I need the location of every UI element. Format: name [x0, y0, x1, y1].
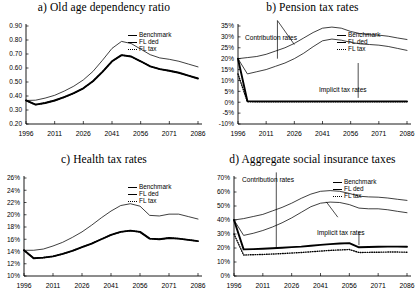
x-tick-label: 1996 [226, 282, 241, 289]
legend-swatch-benchmark [128, 183, 137, 190]
x-tick-label: 1996 [230, 130, 245, 137]
x-tick-label: 2026 [76, 130, 91, 137]
x-tick-label: 2086 [399, 282, 414, 289]
legend-swatch-fl-tax [128, 45, 137, 52]
legend-label-fl-ded: FL ded [344, 185, 364, 192]
panel-b-plot: -10%-5%0%5%10%15%20%25%30%35% 1996201120… [208, 20, 417, 148]
legend-label-fl-tax: FL tax [344, 192, 362, 199]
x-tick-label: 2011 [47, 130, 62, 137]
x-tick-label: 2041 [313, 282, 328, 289]
legend-swatch-fl-ded [333, 185, 342, 192]
panel-c-x-tick-labels: 1996201120262041205620712086 [16, 282, 205, 289]
legend-swatch-fl-tax [337, 45, 346, 52]
panel-d-series [234, 191, 407, 255]
y-tick-label: -10% [219, 120, 234, 127]
y-tick-label: 10% [217, 258, 230, 265]
y-tick-label: 0.60 [9, 64, 22, 71]
y-tick-label: 10% [221, 77, 234, 84]
panel-b-annotation-implicit-tax-rates: Implicit tax rates [319, 86, 367, 93]
panel-b-svg: -10%-5%0%5%10%15%20%25%30%35% 1996201120… [208, 20, 417, 148]
y-tick-label: 22% [7, 199, 20, 206]
panel-d-x-tick-labels: 1996201120262041205620712086 [226, 282, 414, 289]
panel-b-pension-tax-rates: b) Pension tax rates -10%-5%0%5%10%15%20… [208, 0, 417, 152]
legend-label-fl-ded: FL ded [139, 38, 159, 45]
legend-label-fl-ded: FL ded [348, 38, 368, 45]
y-tick-label: 10% [7, 272, 20, 279]
legend-item-fl-ded: FL ded [128, 190, 171, 197]
legend-label-fl-tax: FL tax [139, 197, 157, 204]
y-tick-label: 18% [7, 223, 20, 230]
y-tick-label: -5% [222, 109, 234, 116]
series-line [238, 59, 407, 102]
legend-item-fl-tax: FL tax [333, 192, 376, 199]
panel-b-x-tick-labels: 1996201120262041205620712086 [230, 130, 414, 137]
legend-swatch-fl-ded [337, 38, 346, 45]
y-tick-label: 0% [225, 99, 235, 106]
x-tick-label: 2056 [342, 282, 357, 289]
legend-label-fl-ded: FL ded [139, 190, 159, 197]
legend-label-benchmark: Benchmark [139, 183, 171, 190]
panel-d-plot: 0%10%20%30%40%50%60%70% 1996201120262041… [208, 172, 417, 300]
panel-d-title: d) Aggregate social insurance taxes [208, 153, 417, 165]
x-tick-label: 2011 [259, 130, 274, 137]
x-tick-label: 2011 [46, 282, 61, 289]
legend-swatch-benchmark [337, 31, 346, 38]
x-tick-label: 2041 [104, 130, 119, 137]
y-tick-label: 30% [221, 33, 234, 40]
annotation-leader-line [326, 202, 338, 217]
legend-swatch-fl-tax [128, 197, 137, 204]
y-tick-label: 5% [225, 88, 235, 95]
panel-d-aggregate-social-insurance-taxes: d) Aggregate social insurance taxes 0%10… [208, 152, 417, 305]
panel-b-title: b) Pension tax rates [208, 1, 417, 13]
panel-d-svg: 0%10%20%30%40%50%60%70% 1996201120262041… [208, 172, 417, 300]
y-tick-label: 16% [7, 236, 20, 243]
series-line [234, 191, 407, 220]
y-tick-label: 60% [217, 188, 230, 195]
panel-d-annotation-implicit-tax-rates: Implicit tax rates [317, 229, 365, 236]
legend-swatch-benchmark [333, 178, 342, 185]
y-tick-label: 0.80 [9, 36, 22, 43]
panel-c-health-tax-rates: c) Health tax rates 10%12%14%16%18%20%22… [0, 152, 208, 305]
panel-a-y-tick-labels: 0.200.300.400.500.600.700.800.90 [9, 22, 22, 127]
panel-c-legend: Benchmark FL ded FL tax [128, 183, 171, 204]
y-tick-label: 0.20 [9, 120, 22, 127]
y-tick-label: 0.70 [9, 50, 22, 57]
panel-c-svg: 10%12%14%16%18%20%22%24%26% 199620112026… [0, 172, 208, 300]
panel-b-annotation-contribution-rates: Contribution rates [245, 34, 297, 41]
y-tick-label: 20% [221, 55, 234, 62]
x-tick-label: 2056 [133, 130, 148, 137]
legend-item-fl-ded: FL ded [337, 38, 380, 45]
panel-b-y-tick-labels: -10%-5%0%5%10%15%20%25%30%35% [219, 22, 234, 127]
panel-c-axes [24, 176, 202, 276]
legend-item-fl-tax: FL tax [128, 197, 171, 204]
series-line [238, 27, 407, 59]
y-tick-label: 70% [217, 174, 230, 181]
y-tick-label: 0.90 [9, 22, 22, 29]
figure-grid: a) Old age dependency ratio 0.200.300.40… [0, 0, 417, 305]
legend-swatch-fl-ded [128, 38, 137, 45]
x-tick-label: 2041 [315, 130, 330, 137]
legend-item-fl-ded: FL ded [333, 185, 376, 192]
x-tick-label: 2071 [161, 282, 176, 289]
y-tick-label: 25% [221, 44, 234, 51]
panel-d-y-tick-labels: 0%10%20%30%40%50%60%70% [217, 174, 230, 279]
x-tick-label: 2026 [287, 130, 302, 137]
y-tick-label: 50% [217, 202, 230, 209]
x-tick-label: 2086 [190, 282, 205, 289]
y-tick-label: 0.30 [9, 106, 22, 113]
legend-item-benchmark: Benchmark [333, 178, 376, 185]
x-tick-label: 1996 [16, 282, 31, 289]
legend-label-benchmark: Benchmark [344, 178, 376, 185]
legend-label-benchmark: Benchmark [139, 31, 171, 38]
panel-c-y-tick-labels: 10%12%14%16%18%20%22%24%26% [7, 174, 20, 279]
panel-d-annotation-contribution-rates: Contribution rates [242, 176, 294, 183]
legend-label-benchmark: Benchmark [348, 31, 380, 38]
y-tick-label: 15% [221, 66, 234, 73]
y-tick-label: 0% [221, 272, 231, 279]
panel-d-legend: Benchmark FL ded FL tax [333, 178, 376, 199]
y-tick-label: 26% [7, 174, 20, 181]
x-tick-label: 2011 [256, 282, 271, 289]
panel-a-plot: 0.200.300.400.500.600.700.800.90 1996201… [0, 20, 208, 148]
x-tick-label: 2086 [190, 130, 205, 137]
legend-label-fl-tax: FL tax [139, 45, 157, 52]
